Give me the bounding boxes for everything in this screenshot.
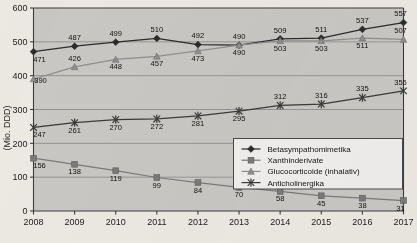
data-label-1-1: 138: [68, 167, 81, 176]
y-axis-tick-labels: 0100200300400500600: [12, 3, 33, 216]
data-label-2-3: 457: [150, 59, 163, 68]
data-label-3-0: 247: [33, 130, 46, 139]
data-label-1-4: 84: [194, 186, 202, 195]
data-label-1-6: 58: [276, 194, 284, 203]
data-label-2-5: 490: [233, 48, 246, 57]
y-tick-label-500: 500: [12, 37, 27, 47]
data-label-2-0: 390: [34, 76, 47, 85]
data-label-3-7: 316: [315, 91, 328, 100]
data-label-0-6: 509: [274, 26, 287, 35]
data-label-0-2: 499: [109, 29, 122, 38]
x-axis-tick-labels: 2008200920102011201220132014201520162017: [23, 211, 413, 227]
data-label-3-5: 295: [233, 114, 246, 123]
data-label-1-7: 45: [317, 199, 325, 208]
data-label-0-7: 511: [315, 25, 327, 34]
y-tick-label-400: 400: [12, 71, 27, 81]
x-tick-label-2017: 2017: [393, 217, 413, 227]
x-tick-label-2008: 2008: [23, 217, 43, 227]
data-label-2-9: 507: [394, 26, 407, 35]
chart-container: 0100200300400500600 20082009201020112012…: [0, 0, 417, 243]
data-label-0-3: 510: [150, 25, 163, 34]
data-label-3-4: 281: [192, 119, 205, 128]
y-tick-label-0: 0: [22, 206, 27, 216]
legend-label-2: Glucocorticoide (inhalativ): [268, 167, 360, 176]
data-label-0-9: 557: [394, 9, 407, 18]
data-label-3-3: 272: [150, 122, 163, 131]
data-label-3-2: 270: [109, 123, 122, 132]
data-label-0-8: 537: [356, 16, 369, 25]
data-label-2-7: 503: [315, 44, 328, 53]
data-label-0-5: 490: [233, 32, 246, 41]
data-label-2-4: 473: [192, 54, 205, 63]
y-tick-label-100: 100: [12, 172, 27, 182]
legend-label-1: Xanthinderivate: [268, 156, 324, 165]
data-label-0-1: 487: [68, 33, 81, 42]
data-label-1-5: 70: [235, 190, 243, 199]
data-label-3-9: 355: [394, 78, 407, 87]
data-label-1-0: 156: [33, 161, 46, 170]
x-tick-label-2010: 2010: [106, 217, 126, 227]
y-axis-title: (Mio. DDD): [2, 106, 12, 151]
data-label-2-8: 511: [356, 41, 368, 50]
marker-square: [248, 157, 254, 163]
legend-label-3: Anticholinergika: [268, 179, 325, 188]
x-tick-label-2015: 2015: [311, 217, 331, 227]
line-chart: 0100200300400500600 20082009201020112012…: [0, 0, 417, 243]
data-label-0-4: 492: [192, 31, 205, 40]
legend-label-0: Betasympathomimetika: [268, 145, 352, 154]
data-label-1-9: 31: [396, 204, 404, 213]
x-tick-label-2016: 2016: [352, 217, 372, 227]
data-label-3-8: 335: [356, 84, 369, 93]
y-tick-label-300: 300: [12, 105, 27, 115]
data-label-1-2: 119: [110, 174, 122, 183]
chart-legend[interactable]: BetasympathomimetikaXanthinderivateGluco…: [234, 139, 403, 190]
data-label-3-1: 261: [68, 126, 81, 135]
x-tick-label-2014: 2014: [270, 217, 290, 227]
x-tick-label-2009: 2009: [65, 217, 85, 227]
y-tick-label-200: 200: [12, 139, 27, 149]
x-tick-label-2013: 2013: [229, 217, 249, 227]
y-axis-label: (Mio. DDD): [2, 106, 12, 151]
data-label-2-1: 426: [68, 54, 81, 63]
x-tick-label-2011: 2011: [147, 217, 166, 227]
data-label-2-6: 503: [274, 44, 287, 53]
y-tick-label-600: 600: [12, 3, 27, 13]
x-tick-label-2012: 2012: [188, 217, 208, 227]
data-label-1-8: 38: [358, 201, 366, 210]
data-label-2-2: 448: [109, 62, 122, 71]
data-label-0-0: 471: [33, 55, 46, 64]
data-label-3-6: 312: [274, 92, 287, 101]
data-label-1-3: 99: [153, 181, 161, 190]
legend-item-3[interactable]: Anticholinergika: [242, 178, 325, 187]
